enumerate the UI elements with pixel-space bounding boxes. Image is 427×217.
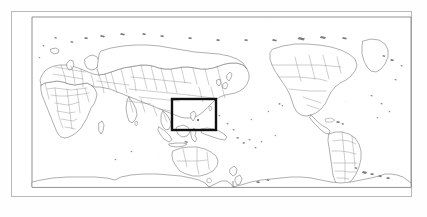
world-map [11,11,412,197]
landmass-eurasia-africa [40,45,249,150]
landmass-americas [270,39,388,186]
world-map-figure [0,0,427,217]
